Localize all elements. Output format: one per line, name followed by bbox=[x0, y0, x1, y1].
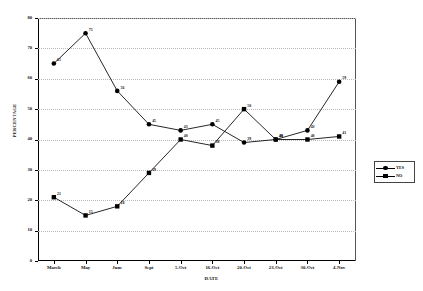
data-label: 45 bbox=[216, 120, 220, 124]
square-marker-icon bbox=[383, 174, 388, 179]
square-marker-icon bbox=[242, 107, 246, 111]
legend-swatch-yes bbox=[376, 165, 395, 172]
legend: YES NO bbox=[374, 161, 415, 183]
square-marker-icon bbox=[337, 134, 341, 138]
data-label: 39 bbox=[247, 138, 251, 142]
series-lines bbox=[0, 0, 423, 291]
data-label: 41 bbox=[342, 132, 346, 136]
circle-marker-icon bbox=[52, 61, 57, 66]
legend-label-no: NO bbox=[395, 174, 402, 178]
data-label: 59 bbox=[342, 77, 346, 81]
data-label: 21 bbox=[57, 193, 61, 197]
data-label: 43 bbox=[311, 126, 315, 130]
circle-marker-icon bbox=[337, 79, 342, 84]
legend-item-yes[interactable]: YES bbox=[376, 164, 412, 172]
square-marker-icon bbox=[115, 204, 119, 208]
data-label: 65 bbox=[57, 59, 61, 63]
circle-marker-icon bbox=[178, 128, 183, 133]
data-label: 45 bbox=[152, 120, 156, 124]
series-line-yes bbox=[54, 33, 339, 142]
data-label: 75 bbox=[89, 29, 93, 33]
square-marker-icon bbox=[83, 213, 87, 217]
data-label: 50 bbox=[247, 105, 251, 109]
data-label: 29 bbox=[152, 169, 156, 173]
circle-marker-icon bbox=[147, 122, 152, 127]
circle-marker-icon bbox=[210, 122, 215, 127]
legend-swatch-no bbox=[376, 173, 395, 180]
legend-label-yes: YES bbox=[395, 166, 404, 170]
data-label: 38 bbox=[216, 141, 220, 145]
square-marker-icon bbox=[305, 137, 309, 141]
data-label: 56 bbox=[120, 87, 124, 91]
circle-marker-icon bbox=[242, 140, 247, 145]
square-marker-icon bbox=[274, 137, 278, 141]
data-label: 40 bbox=[184, 135, 188, 139]
square-marker-icon bbox=[178, 137, 182, 141]
data-label: 40 bbox=[279, 135, 283, 139]
circle-marker-icon bbox=[115, 89, 120, 94]
square-marker-icon bbox=[52, 195, 56, 199]
data-label: 43 bbox=[184, 126, 188, 130]
data-label: 18 bbox=[120, 202, 124, 206]
data-label: 15 bbox=[89, 211, 93, 215]
circle-marker-icon bbox=[305, 128, 310, 133]
legend-item-no[interactable]: NO bbox=[376, 172, 412, 180]
chart-container: 01020304050607080 MarchMayJuneSept5-Oct1… bbox=[0, 0, 423, 291]
circle-marker-icon bbox=[83, 31, 88, 36]
circle-marker-icon bbox=[383, 166, 388, 171]
data-label: 40 bbox=[311, 135, 315, 139]
series-line-no bbox=[54, 109, 339, 215]
square-marker-icon bbox=[210, 143, 214, 147]
square-marker-icon bbox=[147, 171, 151, 175]
